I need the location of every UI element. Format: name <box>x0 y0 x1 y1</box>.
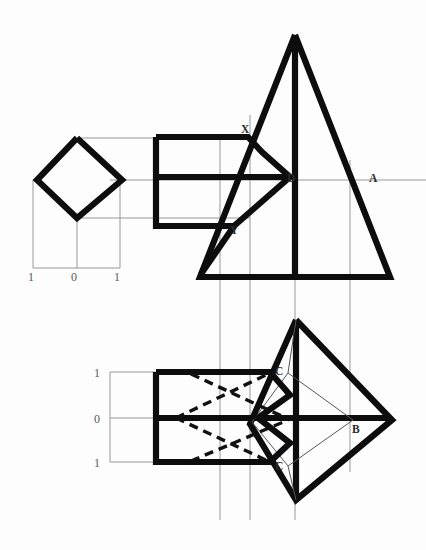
scale-tick-label-v-origin: 0 <box>94 412 100 426</box>
scale-labels-group: 1 0 1 1 0 1 <box>28 270 120 470</box>
scale-tick-label-h-left: 1 <box>28 270 34 284</box>
technical-drawing-canvas: X D A Y C B C 1 0 1 1 0 1 <box>0 0 426 550</box>
orthographic-projection-drawing: X D A Y C B C 1 0 1 1 0 1 <box>0 0 426 550</box>
plan-view-group <box>156 320 392 500</box>
label-C-upper: C <box>275 365 283 377</box>
label-A: A <box>369 172 378 184</box>
scale-tick-label-v-top: 1 <box>94 366 100 380</box>
hidden-line <box>191 374 288 419</box>
scale-tick-label-h-origin: 0 <box>71 270 77 284</box>
scale-tick-label-h-right: 1 <box>114 270 120 284</box>
side-view-diamond <box>37 138 122 218</box>
label-C-lower: C <box>275 460 283 472</box>
label-D: D <box>287 172 295 184</box>
label-X: X <box>241 123 250 135</box>
front-view-group <box>156 35 390 277</box>
construction-lines-group <box>33 100 426 520</box>
scale-tick-label-v-bottom: 1 <box>94 456 100 470</box>
label-B: B <box>352 423 360 435</box>
label-Y: Y <box>230 224 239 236</box>
side-view-diamond-outline <box>37 138 122 218</box>
vertical-projection-lines <box>220 100 350 520</box>
